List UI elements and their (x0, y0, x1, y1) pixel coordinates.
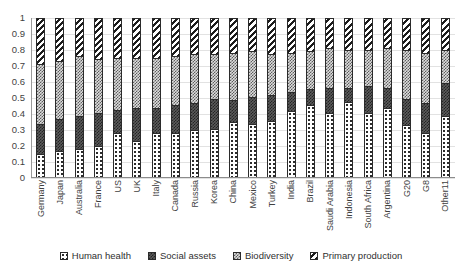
bar-segment-primary-production[interactable] (114, 19, 121, 59)
bar-segment-biodiversity[interactable] (56, 62, 63, 120)
bar-indonesia[interactable] (344, 18, 353, 178)
bar-france[interactable] (94, 18, 103, 178)
bar-segment-primary-production[interactable] (307, 19, 314, 52)
bar-segment-human-health[interactable] (365, 114, 372, 177)
bar-segment-social-assets[interactable] (56, 120, 63, 152)
bar-segment-biodiversity[interactable] (326, 49, 333, 89)
bar-segment-social-assets[interactable] (403, 100, 410, 127)
bar-segment-human-health[interactable] (133, 142, 140, 177)
bar-segment-biodiversity[interactable] (288, 54, 295, 94)
bar-segment-primary-production[interactable] (211, 19, 218, 55)
bar-segment-social-assets[interactable] (384, 89, 391, 110)
bar-segment-human-health[interactable] (153, 134, 160, 177)
bar-segment-primary-production[interactable] (345, 19, 352, 51)
bar-china[interactable] (229, 18, 238, 178)
bar-g8[interactable] (421, 18, 430, 178)
bar-us[interactable] (113, 18, 122, 178)
bar-segment-human-health[interactable] (307, 106, 314, 177)
bar-segment-human-health[interactable] (37, 155, 44, 177)
bar-australia[interactable] (75, 18, 84, 178)
bar-segment-social-assets[interactable] (288, 93, 295, 112)
bar-segment-social-assets[interactable] (345, 89, 352, 103)
bar-segment-primary-production[interactable] (56, 19, 63, 62)
bar-segment-social-assets[interactable] (211, 100, 218, 130)
bar-segment-human-health[interactable] (403, 126, 410, 177)
bar-segment-social-assets[interactable] (307, 90, 314, 106)
bar-segment-social-assets[interactable] (76, 117, 83, 150)
bar-segment-primary-production[interactable] (268, 19, 275, 55)
bar-segment-biodiversity[interactable] (365, 51, 372, 87)
bar-canada[interactable] (171, 18, 180, 178)
bar-segment-primary-production[interactable] (249, 19, 256, 52)
bar-japan[interactable] (55, 18, 64, 178)
bar-segment-human-health[interactable] (268, 122, 275, 177)
bar-segment-human-health[interactable] (230, 123, 237, 177)
bar-segment-human-health[interactable] (211, 130, 218, 177)
bar-segment-human-health[interactable] (345, 103, 352, 177)
bar-segment-social-assets[interactable] (191, 104, 198, 131)
legend-item-human-health[interactable]: Human health (60, 251, 131, 261)
bar-segment-primary-production[interactable] (403, 19, 410, 51)
bar-segment-biodiversity[interactable] (230, 54, 237, 101)
bar-segment-human-health[interactable] (249, 125, 256, 177)
bar-segment-primary-production[interactable] (37, 19, 44, 65)
bar-segment-human-health[interactable] (384, 109, 391, 177)
bar-segment-primary-production[interactable] (172, 19, 179, 57)
legend-item-biodiversity[interactable]: Biodiversity (233, 251, 294, 261)
bar-mexico[interactable] (248, 18, 257, 178)
bar-segment-primary-production[interactable] (95, 19, 102, 60)
bar-segment-social-assets[interactable] (230, 101, 237, 123)
bar-russia[interactable] (190, 18, 199, 178)
bar-uk[interactable] (132, 18, 141, 178)
bar-segment-biodiversity[interactable] (345, 51, 352, 89)
bar-segment-social-assets[interactable] (442, 84, 449, 117)
bar-segment-biodiversity[interactable] (268, 55, 275, 96)
bar-segment-human-health[interactable] (172, 134, 179, 177)
bar-other11[interactable] (441, 18, 450, 178)
bar-segment-human-health[interactable] (114, 134, 121, 177)
bar-segment-human-health[interactable] (422, 134, 429, 177)
bar-segment-human-health[interactable] (288, 112, 295, 177)
bar-brazil[interactable] (306, 18, 315, 178)
bar-segment-social-assets[interactable] (249, 98, 256, 125)
bar-segment-human-health[interactable] (56, 152, 63, 177)
bar-segment-biodiversity[interactable] (384, 49, 391, 89)
bar-segment-primary-production[interactable] (191, 19, 198, 55)
bar-segment-social-assets[interactable] (365, 87, 372, 114)
bar-india[interactable] (287, 18, 296, 178)
bar-saudi-arabia[interactable] (325, 18, 334, 178)
bar-korea[interactable] (210, 18, 219, 178)
bar-segment-biodiversity[interactable] (153, 59, 160, 110)
bar-segment-primary-production[interactable] (326, 19, 333, 49)
bar-segment-biodiversity[interactable] (114, 59, 121, 111)
bar-segment-primary-production[interactable] (442, 19, 449, 51)
bar-turkey[interactable] (267, 18, 276, 178)
legend-item-primary-production[interactable]: Primary production (310, 251, 402, 261)
bar-segment-biodiversity[interactable] (37, 65, 44, 125)
bar-segment-primary-production[interactable] (422, 19, 429, 54)
bar-segment-biodiversity[interactable] (133, 59, 140, 110)
bar-italy[interactable] (152, 18, 161, 178)
bar-segment-biodiversity[interactable] (249, 52, 256, 98)
bar-segment-social-assets[interactable] (172, 106, 179, 134)
bar-segment-biodiversity[interactable] (76, 57, 83, 117)
bar-segment-social-assets[interactable] (114, 111, 121, 135)
bar-segment-social-assets[interactable] (37, 125, 44, 155)
bar-segment-human-health[interactable] (326, 114, 333, 177)
bar-segment-human-health[interactable] (442, 117, 449, 177)
bar-segment-biodiversity[interactable] (403, 51, 410, 100)
bar-segment-social-assets[interactable] (95, 114, 102, 147)
bar-segment-primary-production[interactable] (384, 19, 391, 49)
bar-segment-social-assets[interactable] (153, 109, 160, 134)
bar-g20[interactable] (402, 18, 411, 178)
bar-segment-biodiversity[interactable] (307, 52, 314, 90)
bar-segment-biodiversity[interactable] (422, 54, 429, 105)
bar-segment-primary-production[interactable] (230, 19, 237, 54)
bar-segment-social-assets[interactable] (133, 109, 140, 142)
legend-item-social-assets[interactable]: Social assets (148, 251, 216, 261)
bar-segment-primary-production[interactable] (365, 19, 372, 51)
bar-segment-biodiversity[interactable] (191, 55, 198, 104)
bar-segment-primary-production[interactable] (133, 19, 140, 59)
bar-segment-biodiversity[interactable] (172, 57, 179, 106)
bar-argentina[interactable] (383, 18, 392, 178)
